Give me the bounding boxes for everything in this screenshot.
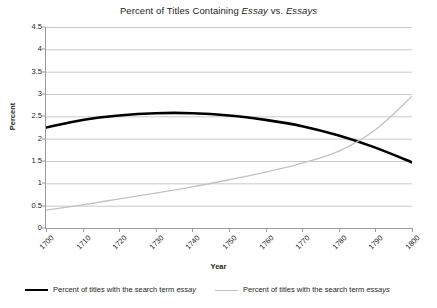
plot-area	[46, 27, 412, 228]
y-tick-label: 3	[0, 90, 42, 98]
y-axis-title: Percent	[8, 87, 17, 147]
series-line-1	[46, 96, 412, 210]
y-tick-mark	[42, 228, 45, 229]
y-tick-label: 0	[0, 224, 42, 232]
y-tick-mark	[42, 205, 45, 206]
x-tick-mark	[192, 229, 193, 232]
legend-entry-1[interactable]: Percent of titles with the search term e…	[215, 283, 390, 297]
x-tick-label: 1710	[65, 234, 92, 261]
chart-title-text: Percent of Titles Containing Essay vs. E…	[120, 5, 317, 16]
legend-label: Percent of titles with the search term e…	[53, 286, 196, 294]
x-tick-label: 1800	[395, 234, 422, 261]
x-tick-label: 1750	[212, 234, 239, 261]
legend-label: Percent of titles with the search term e…	[243, 286, 390, 294]
y-tick-mark	[42, 49, 45, 50]
y-tick-label: 1.5	[0, 157, 42, 165]
legend-entry-0[interactable]: Percent of titles with the search term e…	[25, 283, 196, 297]
x-tick-label: 1720	[102, 234, 129, 261]
series-line-0	[46, 113, 412, 162]
y-tick-label: 4.5	[0, 23, 42, 31]
y-tick-mark	[42, 161, 45, 162]
x-tick-label: 1730	[139, 234, 166, 261]
x-axis-title: Year	[0, 262, 437, 271]
x-tick-mark	[266, 229, 267, 232]
y-tick-label: 4	[0, 46, 42, 54]
legend-line-icon	[25, 289, 48, 291]
y-tick-label: 2	[0, 135, 42, 143]
y-tick-mark	[42, 71, 45, 72]
y-tick-label: 0.5	[0, 202, 42, 210]
y-tick-mark	[42, 138, 45, 139]
x-tick-label: 1770	[285, 234, 312, 261]
y-axis-tick-labels: 00.511.522.533.544.5	[0, 27, 42, 228]
y-tick-mark	[42, 116, 45, 117]
x-tick-label: 1780	[322, 234, 349, 261]
x-tick-mark	[119, 229, 120, 232]
x-tick-mark	[156, 229, 157, 232]
y-tick-label: 3.5	[0, 68, 42, 76]
legend-line-icon	[215, 290, 238, 291]
x-tick-label: 1740	[175, 234, 202, 261]
chart-legend: Percent of titles with the search term e…	[0, 283, 437, 299]
y-tick-mark	[42, 183, 45, 184]
gridlines	[46, 28, 412, 229]
x-tick-label: 1760	[248, 234, 275, 261]
x-axis-tick-labels: 1700171017201730174017501760177017801790…	[46, 229, 412, 261]
x-tick-mark	[412, 229, 413, 232]
series-lines	[46, 96, 412, 210]
y-tick-label: 2.5	[0, 113, 42, 121]
plot-svg	[46, 27, 412, 228]
y-tick-label: 1	[0, 180, 42, 188]
x-tick-mark	[83, 229, 84, 232]
x-tick-label: 1700	[29, 234, 56, 261]
x-tick-mark	[229, 229, 230, 232]
x-tick-mark	[375, 229, 376, 232]
x-tick-mark	[339, 229, 340, 232]
x-tick-mark	[46, 229, 47, 232]
chart-title: Percent of Titles Containing Essay vs. E…	[0, 5, 437, 16]
y-tick-mark	[42, 94, 45, 95]
x-tick-label: 1790	[358, 234, 385, 261]
chart-container: Percent of Titles Containing Essay vs. E…	[0, 0, 437, 308]
y-tick-mark	[42, 27, 45, 28]
x-tick-mark	[302, 229, 303, 232]
